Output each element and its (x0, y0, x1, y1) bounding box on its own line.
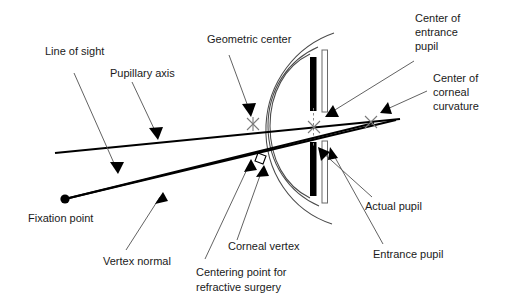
label-actual-pupil: Actual pupil (365, 200, 422, 212)
leader-center-of-entrance-pupil (330, 61, 414, 113)
label-geometric-center: Geometric center (207, 33, 292, 45)
figure-canvas: Line of sight Pupillary axis Geometric c… (0, 0, 507, 303)
leader-line-of-sight (74, 73, 117, 170)
arrowhead-pupillary-axis (149, 127, 163, 140)
leader-lines-group (74, 55, 427, 259)
label-pupillary-axis: Pupillary axis (110, 67, 175, 79)
arrowhead-geometric-center (242, 103, 256, 117)
arrowhead-vertex-normal (155, 192, 168, 204)
upper-iris-leaf (310, 57, 317, 111)
leader-pupillary-axis (132, 82, 157, 135)
label-centering-point-line2: refractive surgery (196, 281, 281, 293)
leader-center-of-corneal-curvature (385, 91, 427, 110)
label-fixation-point: Fixation point (28, 212, 93, 224)
label-center-of-corneal-curvature-line3: curvature (433, 100, 479, 112)
arrowhead-entrance-pupil (328, 147, 338, 160)
label-center-of-entrance-pupil-line3: pupil (415, 40, 438, 52)
label-vertex-normal: Vertex normal (103, 255, 171, 267)
optical-axes-group (55, 119, 400, 199)
arrowhead-line-of-sight (110, 162, 124, 174)
leader-vertex-normal (126, 197, 160, 250)
upper-lens-edge (322, 50, 328, 112)
label-entrance-pupil: Entrance pupil (373, 248, 443, 260)
lower-iris-leaf (310, 142, 317, 196)
right-angle-marker (255, 153, 266, 164)
fixation-point-dot (60, 194, 69, 203)
arrowhead-corneal-vertex (256, 165, 269, 177)
label-corneal-vertex: Corneal vertex (228, 240, 300, 252)
leader-entrance-pupil (332, 152, 383, 244)
cornea-inner-arc (270, 54, 310, 198)
label-center-of-corneal-curvature-line1: Center of (433, 72, 479, 84)
label-center-of-entrance-pupil-line1: Center of (415, 12, 461, 24)
leader-geometric-center (229, 55, 250, 112)
geometric-center-x-mark (247, 117, 259, 131)
label-line-of-sight: Line of sight (45, 45, 104, 57)
point-markers-group (60, 116, 377, 204)
label-centering-point-line1: Centering point for (196, 266, 287, 278)
eye-axes-diagram: Line of sight Pupillary axis Geometric c… (0, 0, 507, 303)
leader-corneal-vertex (237, 170, 262, 240)
label-center-of-entrance-pupil-line2: entrance (415, 26, 458, 38)
label-center-of-corneal-curvature-line2: corneal (433, 86, 469, 98)
